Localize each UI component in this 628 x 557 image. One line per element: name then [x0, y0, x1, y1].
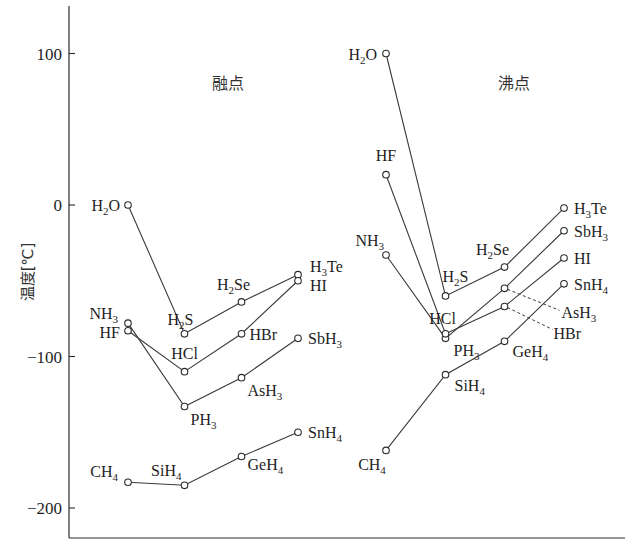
data-label: CH4	[358, 456, 386, 476]
data-label: NH3	[355, 232, 384, 252]
data-label: H2S	[168, 311, 194, 331]
panel-title-melting: 融点	[212, 74, 244, 93]
data-label: SiH4	[151, 462, 182, 482]
series-line-group14	[386, 284, 564, 451]
data-point	[238, 330, 245, 337]
data-label: GeH4	[248, 456, 284, 476]
data-point	[501, 338, 508, 345]
data-point	[181, 403, 188, 410]
data-label: HI	[310, 277, 327, 294]
data-point	[238, 299, 245, 306]
data-label: H2O	[348, 46, 377, 66]
data-label: H3Te	[310, 258, 343, 278]
data-point	[181, 482, 188, 489]
y-tick-label: 100	[37, 45, 63, 64]
data-point	[181, 330, 188, 337]
data-label: PH3	[454, 342, 480, 362]
data-point	[561, 280, 568, 287]
data-label: SiH4	[455, 377, 486, 397]
y-tick-label: 0	[54, 196, 63, 215]
data-label: SbH3	[308, 330, 342, 350]
data-point	[295, 429, 302, 436]
series-line-group16	[128, 205, 298, 334]
data-label: HBr	[554, 325, 582, 342]
data-label: HF	[376, 147, 397, 164]
data-point	[442, 371, 449, 378]
data-point	[442, 293, 449, 300]
panel-melting: CH4SiH4GeH4SnH4NH3PH3AsH3SbH3H2OH2SH2SeH…	[89, 197, 342, 489]
data-point	[125, 320, 132, 327]
data-point	[383, 50, 390, 57]
data-label: AsH3	[562, 304, 597, 324]
data-label: SnH4	[574, 276, 608, 296]
data-point	[125, 479, 132, 486]
data-label: HCl	[171, 345, 198, 362]
y-tick-label: −100	[27, 348, 62, 367]
data-point	[501, 285, 508, 292]
data-label: H2S	[443, 268, 469, 288]
series-line-group16	[386, 54, 564, 296]
chart: 1000−100−200 温度[℃] 融点 沸点 CH4SiH4GeH4SnH4…	[0, 0, 628, 557]
data-point	[181, 368, 188, 375]
data-label: H2Se	[476, 241, 509, 261]
plot-area: CH4SiH4GeH4SnH4NH3PH3AsH3SbH3H2OH2SH2SeH…	[89, 46, 608, 489]
data-label: PH3	[191, 411, 217, 431]
data-point	[442, 330, 449, 337]
y-axis-title: 温度[℃]	[19, 243, 37, 302]
data-label: HBr	[250, 326, 278, 343]
data-point	[125, 327, 132, 334]
data-point	[295, 335, 302, 342]
data-label: SbH3	[574, 223, 608, 243]
leader-line	[508, 308, 553, 330]
panel-boiling: CH4SiH4GeH4SnH4NH3PH3AsH3SbH3H2OH2SH2SeH…	[348, 46, 608, 477]
data-label: HCl	[429, 310, 456, 327]
data-label: H3Te	[574, 200, 607, 220]
data-point	[238, 453, 245, 460]
y-tick-label: −200	[27, 499, 62, 518]
data-point	[561, 205, 568, 212]
data-point	[501, 264, 508, 271]
data-point	[125, 202, 132, 209]
data-label: H2O	[91, 197, 120, 217]
panel-title-boiling: 沸点	[498, 74, 530, 93]
data-point	[238, 374, 245, 381]
data-label: H2Se	[217, 276, 250, 296]
data-label: NH3	[89, 305, 118, 325]
data-point	[383, 171, 390, 178]
data-label: GeH4	[513, 343, 549, 363]
data-point	[383, 252, 390, 259]
data-label: AsH3	[248, 382, 283, 402]
data-point	[561, 227, 568, 234]
data-label: HF	[100, 324, 121, 341]
data-point	[501, 303, 508, 310]
data-label: HI	[574, 250, 591, 267]
data-point	[561, 255, 568, 262]
data-label: CH4	[90, 463, 118, 483]
data-point	[295, 277, 302, 284]
data-label: SnH4	[308, 424, 342, 444]
leader-line	[508, 289, 560, 310]
data-point	[383, 447, 390, 454]
